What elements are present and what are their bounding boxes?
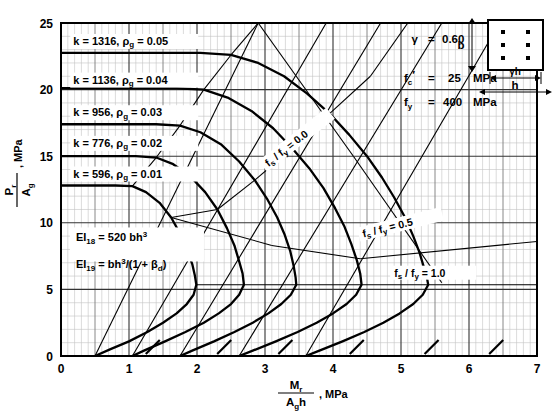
x-tick-label: 5 <box>398 362 405 376</box>
y-tick-label: 10 <box>40 216 54 230</box>
curve-label: k = 1136, ρg = 0.04 <box>70 73 198 89</box>
h-label: h <box>511 79 518 91</box>
x-tick-label: 6 <box>466 362 473 376</box>
rebar-dot <box>526 43 530 47</box>
ratio-label: fs / fy = 1.0 <box>390 266 476 282</box>
gamma-symbol: γ <box>412 33 419 45</box>
fc-value: 25 <box>448 72 461 84</box>
curve-label: k = 776, ρg = 0.02 <box>70 136 198 152</box>
chart-svg: 01234567 0510152025 k = 596, ρg = 0.01k … <box>0 0 560 419</box>
x-axis-title-units: , MPa <box>319 388 349 400</box>
fc-equals: = <box>428 72 435 84</box>
rebar-dot <box>501 30 505 34</box>
curve-label: k = 596, ρg = 0.01 <box>70 167 198 183</box>
b-label: b <box>457 39 464 51</box>
y-tick-label: 5 <box>46 283 53 297</box>
rebar-dot <box>501 43 505 47</box>
x-tick-label: 7 <box>534 362 541 376</box>
y-tick-label: 15 <box>40 150 54 164</box>
y-axis-title-units: , MPa <box>12 138 24 168</box>
fy-equals: = <box>428 96 435 108</box>
x-tick-label: 4 <box>330 362 337 376</box>
section-outline <box>488 20 543 70</box>
fy-units: MPa <box>473 96 497 108</box>
y-tick-label: 25 <box>40 17 54 31</box>
rebar-dot <box>526 30 530 34</box>
y-tick-label: 20 <box>40 83 54 97</box>
curve-label: k = 956, ρg = 0.03 <box>70 105 198 121</box>
x-tick-label: 3 <box>262 362 269 376</box>
x-tick-label: 1 <box>126 362 133 376</box>
curve-label: k = 1316, ρg = 0.05 <box>70 34 198 50</box>
gamma-h-label: γh <box>509 66 521 77</box>
y-tick-label: 0 <box>46 350 53 364</box>
rebar-dot <box>501 56 505 60</box>
rebar-dot <box>526 56 530 60</box>
interaction-diagram-figure: 01234567 0510152025 k = 596, ρg = 0.01k … <box>0 0 560 419</box>
x-tick-label: 2 <box>194 362 201 376</box>
fy-value: 400 <box>443 96 462 108</box>
gamma-equals: = <box>428 33 435 45</box>
x-tick-label: 0 <box>58 362 65 376</box>
